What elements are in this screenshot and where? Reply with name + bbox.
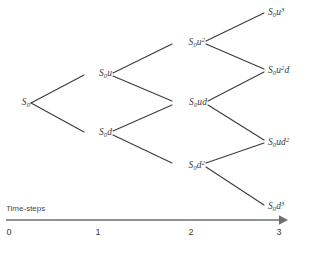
node-label-s0u2: S0u2 bbox=[189, 36, 205, 48]
edge-s0u-to-s0ud bbox=[113, 76, 172, 101]
node-label-s0ud: S0ud bbox=[189, 98, 207, 108]
time-tick-3: 3 bbox=[276, 228, 281, 237]
edge-group-step2 bbox=[206, 13, 264, 205]
edge-s0u2-to-s0u2d bbox=[206, 44, 264, 69]
node-text-s0ud: S0ud bbox=[189, 97, 207, 107]
node-label-s0d: S0d bbox=[99, 128, 112, 138]
edge-group-step1 bbox=[113, 44, 172, 163]
edge-group-step0 bbox=[31, 75, 84, 132]
edge-s0u-to-s0u2 bbox=[113, 44, 172, 73]
edge-s0d2-to-s0d3 bbox=[206, 167, 264, 205]
edge-s0-to-s0d bbox=[31, 103, 84, 132]
binomial-tree-figure: S0 S0u S0d S0u2 S0ud S0d2 S0u3 S0u2d S0u… bbox=[0, 0, 309, 253]
node-label-s0d3: S0d3 bbox=[268, 200, 284, 212]
node-label-s0: S0 bbox=[22, 98, 30, 108]
edge-s0d-to-s0ud bbox=[113, 105, 172, 131]
edge-s0-to-s0u bbox=[31, 75, 84, 103]
node-label-s0d2: S0d2 bbox=[189, 159, 205, 171]
node-text-s0u3: S0u3 bbox=[268, 7, 284, 17]
time-axis-group bbox=[6, 215, 288, 224]
edge-s0u2-to-s0u3 bbox=[206, 13, 264, 41]
node-text-s0u2d: S0u2d bbox=[268, 65, 289, 75]
time-tick-2: 2 bbox=[188, 228, 193, 237]
tree-edges-canvas bbox=[0, 0, 309, 253]
node-label-s0ud2: S0ud2 bbox=[268, 136, 289, 148]
node-label-s0u3: S0u3 bbox=[268, 6, 284, 18]
right-arrow-icon bbox=[279, 215, 288, 224]
node-text-s0d3: S0d3 bbox=[268, 201, 284, 211]
node-text-s0d: S0d bbox=[99, 127, 112, 137]
node-text-s0u: S0u bbox=[99, 68, 112, 78]
node-text-s0u2: S0u2 bbox=[189, 37, 205, 47]
edge-s0ud-to-s0u2d bbox=[208, 72, 264, 101]
edge-s0d2-to-s0ud2 bbox=[206, 143, 264, 163]
node-text-s0: S0 bbox=[22, 97, 30, 107]
node-text-s0ud2: S0ud2 bbox=[268, 137, 289, 147]
node-text-s0d2: S0d2 bbox=[189, 160, 205, 170]
edge-s0ud-to-s0ud2 bbox=[208, 105, 264, 140]
time-tick-0: 0 bbox=[6, 228, 11, 237]
time-tick-1: 1 bbox=[95, 228, 100, 237]
time-axis-caption: Time-steps bbox=[6, 205, 45, 213]
node-label-s0u: S0u bbox=[99, 69, 112, 79]
edge-s0d-to-s0d2 bbox=[113, 135, 172, 163]
node-label-s0u2d: S0u2d bbox=[268, 64, 289, 76]
